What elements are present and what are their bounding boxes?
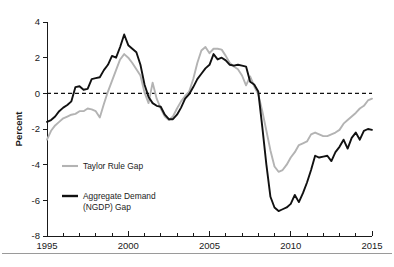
axis-layer	[2, 22, 392, 254]
y-tick-label: -6	[32, 195, 40, 206]
legend-label-aggregate-demand-gap-line1: Aggregate Demand	[83, 191, 156, 201]
series-layer	[47, 34, 372, 211]
y-axis-title-text: Percent	[13, 111, 24, 147]
x-tick-label: 2000	[118, 240, 139, 251]
legend-label-taylor-rule-gap: Taylor Rule Gap	[83, 161, 143, 171]
y-tick-label: 2	[35, 52, 40, 63]
series-line-aggregate-demand-gap	[47, 34, 372, 211]
y-tick-label: 0	[35, 88, 40, 99]
y-tick-label: 4	[35, 16, 40, 27]
y-tick-label: -4	[32, 159, 40, 170]
line-chart-svg: 420-2-4-6-819952000200520102015 Taylor R…	[0, 0, 394, 267]
chart-legend: Taylor Rule GapAggregate Demand(NGDP) Ga…	[62, 161, 156, 211]
tick-label-layer: 420-2-4-6-819952000200520102015	[32, 16, 383, 251]
x-tick-label: 1995	[36, 240, 57, 251]
x-tick-label: 2015	[361, 240, 382, 251]
x-tick-label: 2010	[280, 240, 301, 251]
legend-label-aggregate-demand-gap-line2: (NGDP) Gap	[83, 202, 131, 212]
chart-container: 420-2-4-6-819952000200520102015 Taylor R…	[0, 0, 394, 267]
x-tick-label: 2005	[199, 240, 220, 251]
y-tick-label: -2	[32, 123, 40, 134]
y-axis-title: Percent	[13, 111, 24, 147]
